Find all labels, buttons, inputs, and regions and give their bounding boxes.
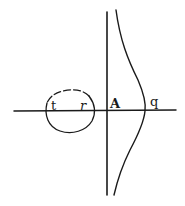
label-A: A: [109, 96, 121, 111]
label-t: t: [51, 98, 57, 113]
label-q: q: [150, 94, 158, 109]
label-r: r: [80, 98, 87, 113]
diagram-canvas: t r A q: [0, 0, 185, 206]
